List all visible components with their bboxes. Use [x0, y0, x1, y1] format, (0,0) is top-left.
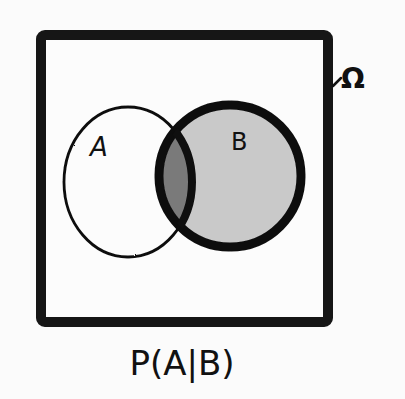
set-a-label: A [88, 132, 108, 162]
set-b-label: B [231, 128, 247, 156]
venn-diagram: Ω A B P(A|B) [0, 0, 405, 399]
omega-label: Ω [341, 62, 365, 95]
omega-leader-line [333, 78, 341, 86]
probability-caption: P(A|B) [129, 343, 234, 383]
